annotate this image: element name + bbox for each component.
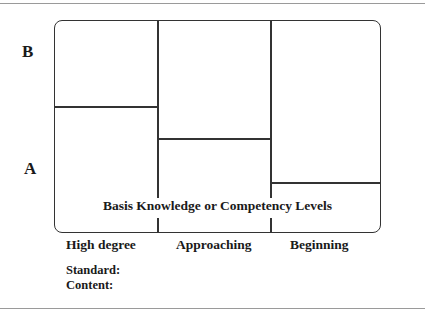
axis-label-b: B bbox=[22, 42, 33, 62]
column-divider-2-upper bbox=[270, 20, 272, 198]
center-label: Basis Knowledge or Competency Levels bbox=[54, 198, 381, 214]
column-divider-1-lower bbox=[157, 218, 159, 233]
standard-label: Standard: bbox=[66, 263, 120, 278]
column-divider-2-lower bbox=[270, 218, 272, 233]
column-label-approaching: Approaching bbox=[176, 237, 252, 253]
column-divider-1-upper bbox=[157, 20, 159, 198]
level-divider-beginning bbox=[270, 182, 381, 184]
level-divider-high-degree bbox=[54, 106, 158, 108]
content-label: Content: bbox=[66, 278, 113, 293]
center-label-text: Basis Knowledge or Competency Levels bbox=[102, 198, 333, 213]
top-rule bbox=[0, 3, 425, 4]
column-label-high-degree: High degree bbox=[66, 237, 136, 253]
bottom-rule bbox=[0, 308, 425, 309]
level-divider-approaching bbox=[157, 138, 271, 140]
axis-label-a: A bbox=[24, 159, 36, 179]
column-label-beginning: Beginning bbox=[290, 237, 349, 253]
